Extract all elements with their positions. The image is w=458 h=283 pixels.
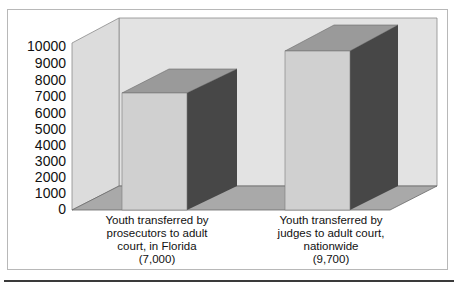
y-tick: 6000: [6, 105, 66, 121]
y-tick: 4000: [6, 137, 66, 153]
label-line: (9,700): [256, 253, 406, 266]
y-tick: 8000: [6, 72, 66, 88]
x-label-nationwide: Youth transferred by judges to adult cou…: [256, 214, 406, 266]
y-tick: 3000: [6, 153, 66, 169]
label-line: judges to adult court,: [256, 227, 406, 240]
label-line: Youth transferred by: [82, 214, 232, 227]
y-tick: 9000: [6, 55, 66, 71]
y-tick: 5000: [6, 121, 66, 137]
y-tick: 0: [6, 201, 66, 217]
label-line: prosecutors to adult: [82, 227, 232, 240]
bar-side: [187, 69, 237, 210]
y-tick: 1000: [6, 185, 66, 201]
label-line: (7,000): [82, 253, 232, 266]
bar-nationwide-judges: [285, 25, 398, 210]
x-label-florida: Youth transferred by prosecutors to adul…: [82, 214, 232, 266]
left-wall: [72, 18, 119, 210]
bar-front: [122, 93, 187, 210]
label-line: Youth transferred by: [256, 214, 406, 227]
y-tick: 2000: [6, 169, 66, 185]
y-tick: 10000: [6, 38, 66, 54]
bar-front: [285, 51, 350, 210]
label-line: nationwide: [256, 240, 406, 253]
bar-florida-prosecutors: [122, 69, 237, 210]
bottom-rule: [4, 280, 454, 282]
bar-side: [350, 25, 398, 210]
y-tick: 7000: [6, 88, 66, 104]
label-line: court, in Florida: [82, 240, 232, 253]
